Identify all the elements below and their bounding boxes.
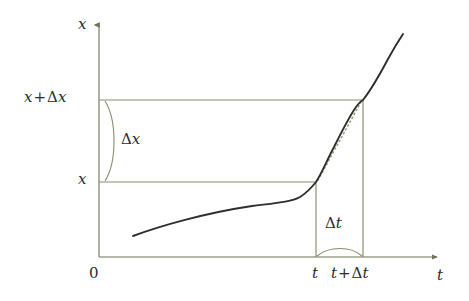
y-tick-label-x-plus-delta-x: x+Δx (24, 90, 66, 105)
delta-x-var: x (132, 130, 140, 148)
x-tick-label-t-plus-delta-t: t+Δt (331, 266, 368, 281)
y-tick-label-x: x (78, 172, 86, 187)
delta-t-label: Δt (325, 216, 342, 231)
delta-x-delta-sign: Δ (121, 130, 132, 148)
origin-label: 0 (89, 266, 99, 281)
delta-x-label: Δx (121, 132, 140, 147)
x-tick-label-t: t (312, 266, 318, 281)
y-tick-delta-sign: Δ (47, 88, 58, 106)
y-tick-x-var: x (58, 88, 66, 106)
x-tick-t-var: t (362, 264, 368, 282)
delta-t-var: t (336, 214, 342, 232)
delta-t-brace (317, 249, 362, 257)
x-axis-label: t (437, 268, 443, 283)
figure-root: x t 0 x x+Δx Δx Δt t t+Δt (0, 0, 469, 301)
graph-canvas (0, 0, 469, 301)
y-axis-label: x (78, 17, 86, 32)
x-tick-plus-sign: + (337, 264, 352, 282)
delta-x-brace (105, 101, 114, 181)
x-tick-delta-sign: Δ (352, 264, 363, 282)
delta-t-delta-sign: Δ (325, 214, 336, 232)
y-tick-plus-sign: + (32, 88, 47, 106)
